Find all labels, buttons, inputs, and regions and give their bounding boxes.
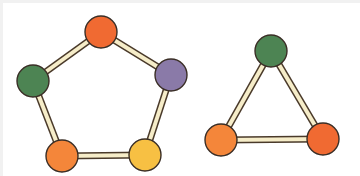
node-orange xyxy=(46,140,78,172)
node-orange xyxy=(205,124,237,156)
pentagon-edges xyxy=(33,32,171,156)
node-yellow xyxy=(129,139,161,171)
node-orange-red xyxy=(307,123,339,155)
graph-diagram xyxy=(0,0,360,176)
diagram-canvas xyxy=(0,0,360,176)
node-green xyxy=(255,35,287,67)
node-purple xyxy=(155,59,187,91)
triangle-graph xyxy=(205,35,339,156)
node-orange-red xyxy=(85,16,117,48)
node-green xyxy=(17,65,49,97)
pentagon-graph xyxy=(17,16,187,172)
